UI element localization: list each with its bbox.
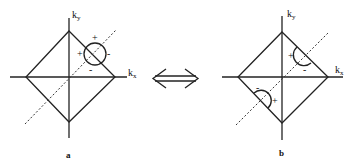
ky-label: ky: [287, 8, 296, 21]
sign-plus-upper: +: [288, 50, 294, 61]
sign-plus-top: +: [92, 32, 98, 43]
sign-plus-left: +: [77, 48, 83, 59]
figure-canvas: + + - - ky kx a + - - + ky kx b: [0, 0, 352, 165]
double-arrow-icon: [153, 69, 198, 88]
ky-label: ky: [72, 9, 81, 22]
sign-plus-lower: +: [272, 95, 278, 106]
sign-minus-upper: -: [303, 64, 306, 75]
panel-b: + - - + ky kx b: [222, 8, 344, 158]
kx-label: kx: [128, 67, 137, 80]
pairing-circle: [84, 43, 106, 65]
upper-half-circle: [293, 47, 311, 66]
caption-a: a: [66, 150, 71, 160]
sign-minus-right: -: [107, 48, 110, 59]
sign-minus-bottom: -: [89, 64, 92, 75]
sign-minus-lower: -: [256, 82, 259, 93]
panel-a: + + - - ky kx a: [10, 9, 137, 160]
caption-b: b: [279, 148, 284, 158]
kx-label: kx: [335, 64, 344, 77]
